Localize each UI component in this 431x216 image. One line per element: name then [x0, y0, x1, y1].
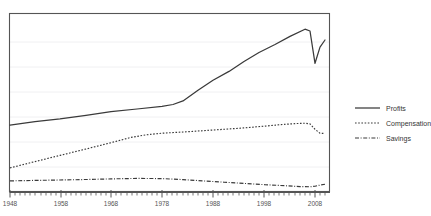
line-chart: 1948 1958 1968 1978 1988 1998 2008 Profi…	[0, 0, 431, 216]
plot-background	[9, 13, 330, 192]
x-tick-label: 1988	[206, 200, 221, 207]
x-tick-label: 1958	[54, 200, 69, 207]
chart-legend: Profits Compensation Savings	[355, 105, 431, 143]
x-axis-tick-labels: 1948 1958 1968 1978 1988 1998 2008	[3, 200, 323, 207]
legend-item-savings[interactable]: Savings	[355, 135, 411, 143]
chart-container: 1948 1958 1968 1978 1988 1998 2008 Profi…	[0, 0, 431, 216]
x-tick-label: 1948	[3, 200, 18, 207]
chart-title	[0, 0, 320, 2]
x-tick-label: 1978	[155, 200, 170, 207]
legend-label: Compensation	[386, 120, 431, 128]
legend-label: Profits	[386, 105, 406, 112]
legend-label: Savings	[386, 135, 411, 143]
legend-item-compensation[interactable]: Compensation	[355, 120, 431, 128]
x-tick-label: 1968	[104, 200, 119, 207]
legend-item-profits[interactable]: Profits	[355, 105, 406, 112]
x-tick-label: 2008	[308, 200, 323, 207]
x-tick-label: 1998	[257, 200, 272, 207]
